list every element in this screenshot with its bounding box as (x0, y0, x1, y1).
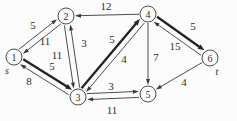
terminal-label: t (216, 66, 219, 77)
arrowhead-4-5 (146, 79, 150, 85)
arrowhead-4-2 (75, 14, 81, 18)
node-label-1: 1 (12, 52, 17, 63)
node-label-4: 4 (146, 9, 151, 20)
arrowhead-3-2 (69, 24, 73, 30)
edge-weight-4-2: 12 (101, 0, 112, 12)
edge-weight-4-6: 5 (190, 20, 196, 32)
arrowhead-3-5 (133, 90, 139, 94)
edge-weight-4-3: 4 (121, 53, 127, 65)
edge-4-3 (89, 23, 144, 89)
edge-weight-2-1: 11 (40, 35, 51, 47)
arrowhead-5-3 (87, 97, 93, 101)
edge-weight-2-3: 11 (52, 49, 63, 61)
arrowhead-6-4 (154, 22, 160, 27)
node-label-6: 6 (208, 53, 213, 64)
edge-weight-6-4: 15 (170, 40, 182, 52)
edge-weight-6-5: 4 (181, 76, 187, 88)
edge-5-3 (92, 97, 140, 99)
edge-weight-3-4: 5 (109, 33, 115, 45)
arrowhead-6-5 (156, 85, 162, 90)
arrowhead-3-1 (20, 64, 26, 69)
node-label-2: 2 (64, 11, 69, 22)
edge-weight-1-3: 5 (49, 60, 55, 72)
edge-weight-3-5: 3 (108, 80, 114, 92)
edge-weight-1-2: 5 (30, 19, 36, 31)
edge-weight-3-2: 3 (81, 37, 87, 49)
edge-4-2 (79, 14, 139, 15)
source-label: s (5, 65, 9, 76)
edge-weight-5-3: 11 (107, 104, 118, 116)
node-label-3: 3 (76, 92, 81, 103)
edge-weight-4-5: 7 (153, 51, 159, 63)
arrowhead-2-3 (71, 82, 75, 88)
node-label-5: 5 (146, 89, 151, 100)
edge-weight-3-1: 8 (26, 75, 32, 87)
graph-canvas: 511583111254751531141s23456t (0, 0, 237, 121)
graph-figure: 511583111254751531141s23456t (0, 0, 237, 121)
